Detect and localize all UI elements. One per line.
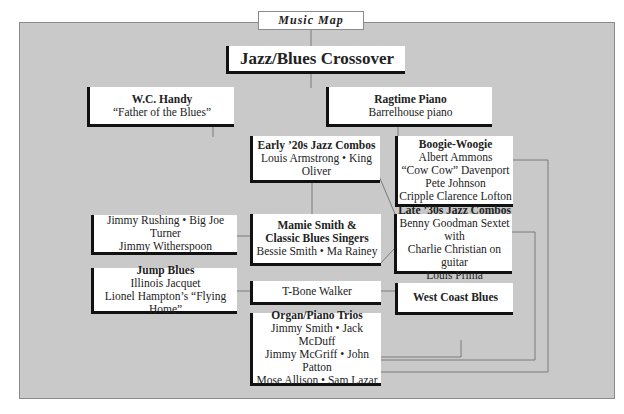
node-line: Benny Goodman Sextet with <box>397 217 512 243</box>
node-jump-blues[interactable]: Jump Blues Illinois Jacquet Lionel Hampt… <box>91 268 237 314</box>
node-line: “Father of the Blues” <box>113 106 211 119</box>
node-west-coast-blues[interactable]: West Coast Blues <box>395 283 513 315</box>
node-line: Cripple Clarence Lofton <box>399 190 511 203</box>
node-late-30s-jazz[interactable]: Late ’30s Jazz Combos Benny Goodman Sext… <box>394 214 512 274</box>
node-line: Jimmy Rushing • Big Joe Turner <box>94 214 237 240</box>
node-line: Bessie Smith • Ma Rainey <box>257 245 378 258</box>
node-organ-piano-trios[interactable]: Organ/Piano Trios Jimmy Smith • Jack McD… <box>250 313 381 386</box>
node-title: Boogie-Woogie <box>419 138 492 151</box>
node-wc-handy[interactable]: W.C. Handy “Father of the Blues” <box>87 87 234 127</box>
node-early-20s-jazz[interactable]: Early ’20s Jazz Combos Louis Armstrong •… <box>250 136 380 183</box>
node-title: Ragtime Piano <box>374 93 447 106</box>
node-title-2: Classic Blues Singers <box>265 232 369 245</box>
node-line: Louis Prima <box>426 269 483 282</box>
node-line: “Cow Cow” Davenport <box>402 164 510 177</box>
node-boogie-woogie[interactable]: Boogie-Woogie Albert Ammons “Cow Cow” Da… <box>395 136 513 207</box>
music-map-tab[interactable]: Music Map <box>258 11 364 30</box>
node-line: Jimmy Witherspoon <box>119 240 212 253</box>
node-line: Lionel Hampton’s “Flying Home” <box>94 290 237 316</box>
node-title: Mamie Smith & <box>277 219 356 232</box>
node-ragtime-piano[interactable]: Ragtime Piano Barrelhouse piano <box>326 87 492 127</box>
node-line: Mose Allison • Sam Lazar <box>257 374 378 387</box>
title-text: Jazz/Blues Crossover <box>240 52 394 65</box>
node-jimmy-rushing[interactable]: Jimmy Rushing • Big Joe Turner Jimmy Wit… <box>91 215 237 255</box>
node-line: Jimmy Smith • Jack McDuff <box>253 322 381 348</box>
node-line: Pete Johnson <box>425 177 485 190</box>
node-line: Barrelhouse piano <box>369 106 453 119</box>
node-title: Late ’30s Jazz Combos <box>398 204 511 217</box>
node-title: W.C. Handy <box>132 93 193 106</box>
node-t-bone-walker[interactable]: T-Bone Walker <box>250 281 381 305</box>
node-title: Early ’20s Jazz Combos <box>258 139 376 152</box>
node-title: Jump Blues <box>137 264 195 277</box>
node-line: Jimmy McGriff • John Patton <box>253 348 381 374</box>
node-mamie-smith[interactable]: Mamie Smith & Classic Blues Singers Bess… <box>250 214 381 266</box>
node-line: T-Bone Walker <box>282 285 352 298</box>
node-line: Charlie Christian on guitar <box>397 243 512 269</box>
diagram-title: Jazz/Blues Crossover <box>226 46 405 74</box>
node-title: Organ/Piano Trios <box>271 309 362 322</box>
node-line: Illinois Jacquet <box>131 277 201 290</box>
node-line: Louis Armstrong • King Oliver <box>253 152 380 178</box>
node-line: Albert Ammons <box>419 151 493 164</box>
node-title: West Coast Blues <box>413 291 498 304</box>
